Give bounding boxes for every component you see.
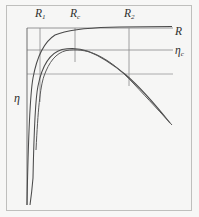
- figure-container: R1 Rc R2 R ηc η: [0, 0, 199, 217]
- horizontal-gridlines: [27, 28, 173, 74]
- label-rc-base: R: [70, 7, 77, 19]
- label-r2: R2: [124, 8, 135, 21]
- label-r-base: R: [175, 25, 182, 37]
- curve-eta-lower: [36, 50, 172, 150]
- label-r1: R1: [35, 8, 46, 21]
- label-eta-base: η: [14, 91, 20, 105]
- label-r1-base: R: [35, 7, 42, 19]
- label-r2-base: R: [124, 7, 131, 19]
- label-eta-c: ηc: [175, 45, 184, 58]
- label-r2-sub: 2: [131, 13, 135, 21]
- vertical-gridlines: [40, 28, 129, 102]
- label-eta-c-sub: c: [181, 50, 184, 58]
- label-eta-axis: η: [14, 92, 20, 104]
- curve-eta-left-tail: [30, 178, 33, 205]
- label-r-axis: R: [175, 26, 182, 38]
- label-rc: Rc: [70, 8, 80, 21]
- curve-r: [27, 26, 172, 205]
- label-rc-sub: c: [77, 13, 80, 21]
- plot-canvas: [0, 0, 199, 217]
- curve-eta-upper: [33, 49, 170, 178]
- label-r1-sub: 1: [42, 13, 46, 21]
